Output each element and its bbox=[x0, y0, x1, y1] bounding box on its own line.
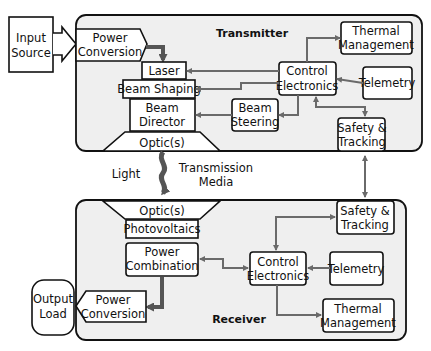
svg-text:Output: Output bbox=[33, 292, 73, 306]
tx-telemetry-block: Telemetry bbox=[358, 67, 416, 99]
svg-text:Telemetry: Telemetry bbox=[358, 76, 416, 90]
svg-text:Thermal: Thermal bbox=[333, 302, 381, 316]
rx-optics-block: Optic(s) bbox=[103, 201, 220, 219]
rx-power-conversion-block: Power Conversion bbox=[76, 291, 146, 322]
svg-text:Control: Control bbox=[286, 64, 328, 78]
rx-telemetry-block: Telemetry bbox=[327, 252, 385, 285]
svg-text:Steering: Steering bbox=[231, 115, 279, 129]
light-wave-icon bbox=[161, 152, 164, 193]
svg-text:Load: Load bbox=[39, 307, 67, 321]
svg-text:Electronics: Electronics bbox=[276, 79, 339, 93]
svg-text:Photovoltaics: Photovoltaics bbox=[124, 222, 201, 236]
photovoltaics-block: Photovoltaics bbox=[124, 220, 201, 238]
svg-text:Optic(s): Optic(s) bbox=[139, 136, 184, 150]
svg-text:Beam: Beam bbox=[145, 101, 178, 115]
receiver-label: Receiver bbox=[212, 313, 266, 326]
beam-steering-block: Beam Steering bbox=[231, 99, 279, 131]
input-arrow-icon bbox=[53, 27, 76, 61]
svg-text:Combination: Combination bbox=[125, 259, 198, 273]
tx-safety-tracking-block: Safety & Tracking bbox=[337, 118, 387, 151]
svg-text:Director: Director bbox=[139, 115, 185, 129]
svg-text:Safety &: Safety & bbox=[340, 204, 389, 218]
svg-text:Conversion: Conversion bbox=[81, 307, 145, 321]
output-load-block: Output Load bbox=[32, 280, 74, 335]
svg-text:Control: Control bbox=[257, 255, 299, 269]
svg-text:Optic(s): Optic(s) bbox=[139, 204, 184, 218]
svg-text:Media: Media bbox=[199, 175, 234, 189]
beam-director-block: Beam Director bbox=[130, 99, 195, 131]
svg-text:Beam: Beam bbox=[238, 101, 271, 115]
svg-text:Telemetry: Telemetry bbox=[327, 262, 385, 276]
input-source-block: Input Source bbox=[9, 17, 53, 72]
svg-text:Input: Input bbox=[16, 31, 46, 45]
svg-text:Tracking: Tracking bbox=[337, 135, 386, 149]
power-combination-block: Power Combination bbox=[125, 243, 198, 276]
svg-text:Power: Power bbox=[96, 293, 131, 307]
power-beaming-diagram: Transmitter Input Source Power Conversio… bbox=[0, 0, 431, 351]
tx-power-conversion-block: Power Conversion bbox=[76, 29, 147, 61]
svg-text:Electronics: Electronics bbox=[247, 269, 310, 283]
svg-text:Power: Power bbox=[93, 31, 128, 45]
svg-text:Source: Source bbox=[11, 46, 51, 60]
svg-text:Beam Shaping: Beam Shaping bbox=[117, 82, 201, 96]
beam-shaping-block: Beam Shaping bbox=[117, 80, 201, 98]
laser-block: Laser bbox=[142, 62, 186, 79]
svg-text:Thermal: Thermal bbox=[351, 24, 399, 38]
rx-safety-tracking-block: Safety & Tracking bbox=[337, 201, 394, 234]
svg-text:Safety &: Safety & bbox=[337, 121, 386, 135]
rx-thermal-management-block: Thermal Management bbox=[320, 299, 396, 332]
svg-text:Tracking: Tracking bbox=[340, 218, 389, 232]
svg-text:Laser: Laser bbox=[148, 64, 180, 78]
transmitter-label: Transmitter bbox=[216, 27, 289, 40]
svg-text:Power: Power bbox=[145, 245, 180, 259]
tx-control-electronics-block: Control Electronics bbox=[276, 62, 339, 95]
svg-text:Management: Management bbox=[320, 316, 396, 330]
svg-text:Conversion: Conversion bbox=[78, 45, 142, 59]
tx-thermal-management-block: Thermal Management bbox=[338, 22, 414, 54]
svg-text:Management: Management bbox=[338, 38, 414, 52]
tx-optics-block: Optic(s) bbox=[103, 132, 220, 151]
rx-control-electronics-block: Control Electronics bbox=[247, 252, 310, 285]
transmission-media-label: Transmission bbox=[178, 161, 253, 175]
light-label: Light bbox=[112, 167, 141, 181]
